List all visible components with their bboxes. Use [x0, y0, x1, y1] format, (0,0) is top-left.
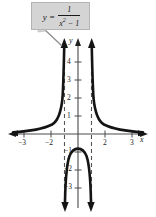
- x-tick-label-pos3: 3: [130, 138, 134, 147]
- y-tick-label-neg3: −3: [64, 182, 72, 191]
- y-tick-label-2: 2: [67, 93, 71, 102]
- x-tick-label-pos2: 2: [103, 138, 107, 147]
- y-axis: [75, 38, 81, 208]
- x-axis-label: x: [140, 135, 144, 144]
- fraction-denominator: x2 − 1: [58, 17, 80, 28]
- function-graph-figure: y = 1 x2 − 1 x y −3 −2 2 3 1 2 3 4 −1 −2…: [0, 0, 156, 217]
- x-tick-label-neg2: −2: [45, 138, 53, 147]
- curve-left-branch: [10, 38, 68, 136]
- y-tick-label-1: 1: [67, 111, 71, 120]
- equation-lhs: y =: [43, 12, 55, 22]
- y-axis-label: y: [69, 36, 73, 45]
- equation-callout: y = 1 x2 − 1: [31, 2, 90, 30]
- denominator-tail: − 1: [66, 19, 79, 28]
- y-tick-label-neg1: −1: [64, 146, 72, 155]
- y-tick-label-3: 3: [67, 75, 71, 84]
- graph-canvas: [0, 0, 156, 217]
- equation-text: y = 1 x2 − 1: [32, 3, 91, 31]
- fraction-numerator: 1: [65, 6, 73, 14]
- y-tick-label-neg2: −2: [64, 164, 72, 173]
- equation-fraction: 1 x2 − 1: [58, 6, 80, 28]
- fraction-bar: [58, 15, 80, 16]
- x-tick-label-neg3: −3: [18, 138, 26, 147]
- curve-right-branch: [88, 38, 146, 136]
- y-tick-label-4: 4: [67, 57, 71, 66]
